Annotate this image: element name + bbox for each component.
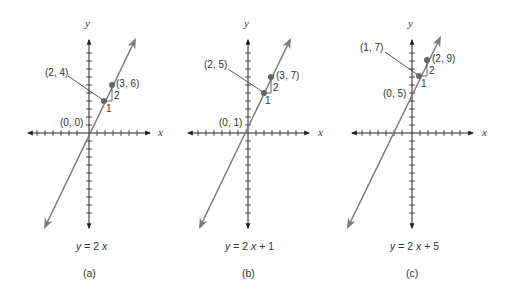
run-label: 1 (421, 78, 427, 89)
x-axis-label: x (481, 126, 487, 138)
x-axis-label: x (157, 126, 163, 138)
point-label: (1, 7) (360, 42, 383, 53)
panel-caption: (b) (242, 267, 255, 279)
leader-line (228, 69, 263, 92)
y-axis-label: y (407, 17, 413, 29)
rise-label: 2 (114, 90, 120, 101)
equation-label: y = 2 x + 1 (224, 240, 274, 252)
point-label: (0, 1) (219, 117, 242, 128)
point-label: (3, 7) (276, 70, 299, 81)
graph-c: y x (1, 7) (2, 9) (0, 5) 2 1 y = 2 x + 5… (348, 17, 487, 279)
point-label: (0, 0) (60, 117, 83, 128)
point-label: (3, 6) (116, 78, 139, 89)
point-marker (268, 74, 274, 80)
y-axis-label: y (243, 17, 249, 29)
equation-label: y = 2 x + 5 (389, 240, 439, 252)
rise-label: 2 (429, 65, 435, 76)
panel-caption: (a) (83, 267, 96, 279)
point-label: (2, 4) (45, 67, 68, 78)
y-axis-label: y (84, 17, 90, 29)
equation-label: y = 2 x (75, 240, 108, 252)
rise-label: 2 (273, 82, 279, 93)
point-marker (109, 82, 115, 88)
point-label: (2, 9) (432, 53, 455, 64)
point-label: (0, 5) (383, 88, 406, 99)
leader-line (68, 76, 103, 100)
point-marker (424, 57, 430, 63)
graph-b: y x (2, 5) (3, 7) (0, 1) 2 1 y = 2 x + 1… (188, 17, 323, 279)
x-axis-label: x (317, 126, 323, 138)
point-label: (2, 5) (204, 59, 227, 70)
figure-canvas: y x (2, 4) (3, 6) (0, 0) 2 1 y = 2 x (a) (0, 0, 512, 300)
run-label: 1 (106, 103, 112, 114)
graph-a: y x (2, 4) (3, 6) (0, 0) 2 1 y = 2 x (a) (28, 17, 163, 279)
leader-line (385, 52, 418, 75)
panel-caption: (c) (406, 267, 418, 279)
run-label: 1 (265, 95, 271, 106)
